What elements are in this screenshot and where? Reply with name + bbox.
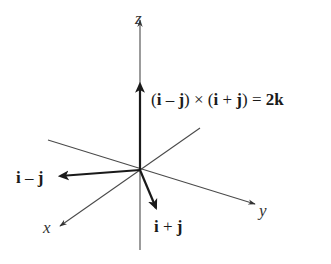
- i-plus-j-label: i + j: [154, 217, 183, 236]
- x-axis: [60, 128, 200, 226]
- vector-i-minus-j: [60, 170, 140, 176]
- x-axis-label: x: [42, 218, 51, 237]
- vector-i-plus-j: [140, 170, 156, 208]
- cross-product-equation: (i – j) × (i + j) = 2k: [151, 90, 284, 109]
- y-axis-label: y: [257, 201, 267, 220]
- i-minus-j-label: i – j: [16, 168, 43, 187]
- z-axis-label: z: [134, 9, 142, 28]
- y-axis: [48, 140, 255, 204]
- cross-product-diagram: z y x (i – j) × (i + j) = 2k i – j i + j: [0, 0, 331, 264]
